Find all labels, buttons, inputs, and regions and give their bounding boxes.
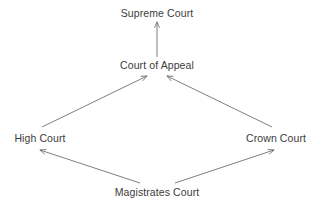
node-magistrates-court: Magistrates Court: [115, 186, 200, 198]
node-court-of-appeal: Court of Appeal: [120, 59, 194, 71]
node-supreme-court: Supreme Court: [121, 7, 194, 19]
court-hierarchy-diagram: Supreme Court Court of Appeal High Court…: [0, 0, 317, 209]
edge-high-court-to-court-of-appeal: [42, 76, 147, 127]
node-crown-court: Crown Court: [246, 132, 306, 144]
edge-magistrates-court-to-crown-court: [175, 150, 274, 183]
diagram-edges-layer: [0, 0, 317, 209]
node-high-court: High Court: [14, 132, 65, 144]
edge-magistrates-court-to-high-court: [40, 150, 140, 183]
edge-crown-court-to-court-of-appeal: [167, 76, 272, 127]
